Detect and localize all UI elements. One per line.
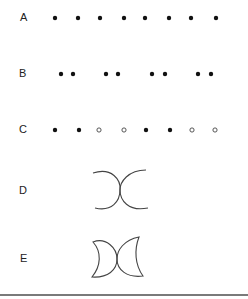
filled-dot-icon (53, 128, 57, 132)
crescent-left-icon (92, 241, 117, 277)
filled-dot-icon (104, 72, 108, 76)
dot-rows (53, 16, 218, 132)
open-dot-icon (190, 128, 194, 132)
figure-e-crescents (92, 237, 143, 277)
filled-dot-icon (163, 72, 167, 76)
filled-dot-icon (122, 16, 126, 20)
filled-dot-icon (214, 16, 218, 20)
filled-dot-icon (144, 128, 148, 132)
filled-dot-icon (59, 72, 63, 76)
filled-dot-icon (76, 16, 80, 20)
filled-dot-icon (196, 72, 200, 76)
filled-dot-icon (71, 72, 75, 76)
filled-dot-icon (98, 16, 102, 20)
filled-dot-icon (189, 16, 193, 20)
arc-left-icon (93, 171, 120, 208)
arc-right-icon (120, 170, 148, 209)
diagram-canvas (0, 0, 248, 299)
filled-dot-icon (77, 128, 81, 132)
filled-dot-icon (168, 128, 172, 132)
figure-d-arcs (93, 170, 148, 209)
filled-dot-icon (167, 16, 171, 20)
filled-dot-icon (150, 72, 154, 76)
crescent-right-icon (117, 237, 143, 276)
open-dot-icon (213, 128, 217, 132)
filled-dot-icon (143, 16, 147, 20)
open-dot-icon (97, 128, 101, 132)
open-dot-icon (122, 128, 126, 132)
bottom-rule (0, 294, 248, 296)
filled-dot-icon (116, 72, 120, 76)
filled-dot-icon (53, 16, 57, 20)
filled-dot-icon (209, 72, 213, 76)
